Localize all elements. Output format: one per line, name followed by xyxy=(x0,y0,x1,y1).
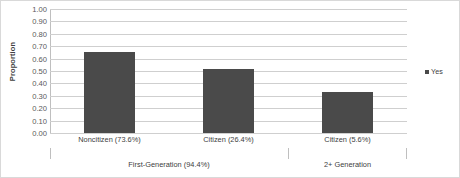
y-axis-tick-label: 1.00 xyxy=(15,5,47,14)
x-axis-group-label: First-Generation (94.4%) xyxy=(128,160,209,169)
legend-swatch-yes xyxy=(425,70,429,74)
legend: Yes xyxy=(425,67,443,76)
y-axis-tick-label: 0.40 xyxy=(15,79,47,88)
legend-label-yes: Yes xyxy=(431,67,443,76)
bar xyxy=(84,52,135,133)
gridline xyxy=(50,133,407,134)
y-axis-tick-label: 0.30 xyxy=(15,91,47,100)
bar xyxy=(322,92,373,133)
y-axis-tick-label: 0.10 xyxy=(15,116,47,125)
x-axis-category-labels: Noncitizen (73.6%)Citizen (26.4%)Citizen… xyxy=(50,135,407,148)
y-axis-tick-label: 0.60 xyxy=(15,54,47,63)
group-separator-tick xyxy=(288,148,289,159)
bars-layer xyxy=(50,9,407,133)
y-axis-tick-label: 0.90 xyxy=(15,17,47,26)
x-axis-group-ticks xyxy=(50,148,407,160)
y-axis-tick-label: 0.80 xyxy=(15,29,47,38)
y-axis-tick-label: 0.20 xyxy=(15,104,47,113)
plot-area xyxy=(50,9,407,133)
y-axis-tick-labels: 1.000.900.800.700.600.500.400.300.200.10… xyxy=(15,1,47,178)
y-axis-tick-label: 0.70 xyxy=(15,42,47,51)
x-axis-category-label: Noncitizen (73.6%) xyxy=(78,135,140,144)
bar-chart: Proportion 1.000.900.800.700.600.500.400… xyxy=(0,0,460,178)
group-separator-tick xyxy=(406,148,407,159)
y-axis-tick-label: 0.50 xyxy=(15,67,47,76)
group-separator-tick xyxy=(50,148,51,159)
x-axis-category-label: Citizen (5.6%) xyxy=(324,135,370,144)
x-axis-category-label: Citizen (26.4%) xyxy=(203,135,254,144)
bar xyxy=(203,69,254,133)
x-axis-group-label: 2+ Generation xyxy=(324,160,371,169)
y-axis-tick-label: 0.00 xyxy=(15,129,47,138)
x-axis-group-labels: First-Generation (94.4%)2+ Generation xyxy=(50,160,407,173)
